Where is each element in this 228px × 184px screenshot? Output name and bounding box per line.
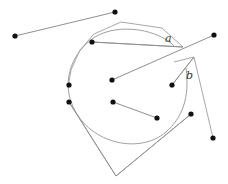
label-a: a <box>165 32 172 45</box>
point-p4 <box>211 32 216 37</box>
point-p3 <box>89 39 94 44</box>
chord-lines <box>92 42 194 85</box>
point-p1 <box>12 33 17 38</box>
point-p9 <box>110 99 115 104</box>
point-segments <box>15 12 214 176</box>
segment-line <box>112 35 214 80</box>
segment-line <box>113 102 157 118</box>
geometry-diagram: ab <box>0 0 228 184</box>
point-p7 <box>66 82 71 87</box>
label-b: b <box>186 69 193 82</box>
point-p12 <box>210 135 215 140</box>
point-p8 <box>66 99 71 104</box>
right-polygon <box>174 57 213 138</box>
segment-line <box>15 12 115 36</box>
point-p11 <box>188 111 193 116</box>
point-p2 <box>112 9 117 14</box>
segment-line <box>69 102 116 176</box>
segment-line <box>116 114 191 176</box>
point-p10 <box>154 115 159 120</box>
point-p5 <box>109 77 114 82</box>
labels-layer: ab <box>165 32 193 82</box>
point-p6 <box>169 82 174 87</box>
